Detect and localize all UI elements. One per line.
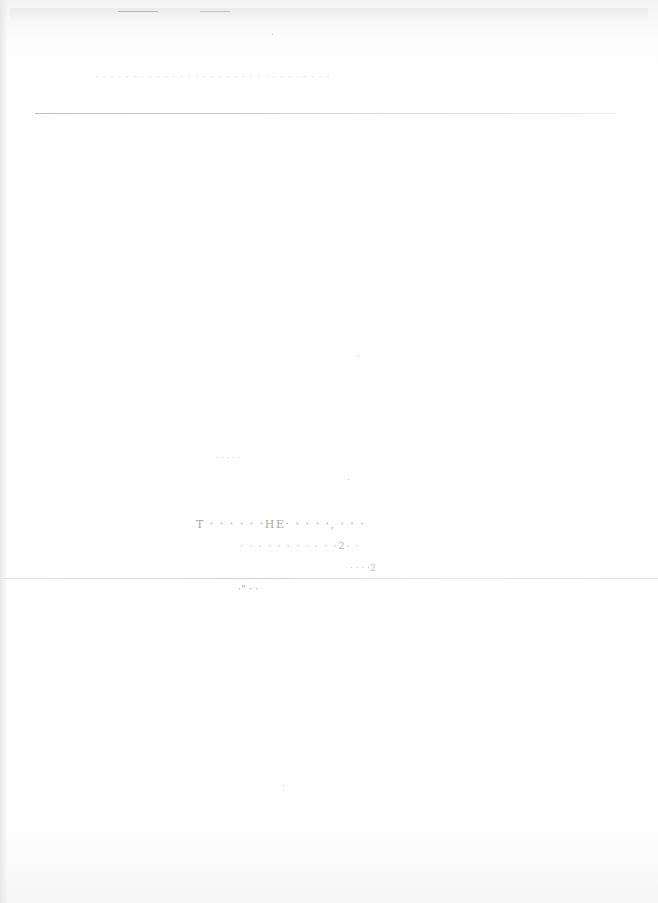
- body-text-line: · · · · · · · · · · ·2· ·: [240, 540, 360, 551]
- section-divider: [0, 578, 658, 579]
- body-text-line: · · · · ·: [215, 453, 241, 463]
- top-rule-fragment: [200, 11, 230, 12]
- header-divider: [35, 113, 615, 114]
- top-rule-fragment: [118, 11, 158, 12]
- scan-top-band: [10, 8, 648, 22]
- scan-speck: [348, 479, 349, 480]
- scan-speck: [283, 785, 284, 786]
- scan-speck: [358, 355, 359, 356]
- scan-speck: [272, 34, 273, 35]
- scan-edge-shadow: [0, 0, 8, 903]
- scanned-page: · · · · · · · · · · · · · · · · · · · · …: [0, 0, 658, 903]
- page-header-text: · · · · · · · · · · · · · · · · · · · · …: [95, 72, 565, 82]
- body-text-line: · · · ·2: [350, 563, 376, 573]
- body-text-line: ·" · ·: [238, 583, 259, 594]
- body-text-line: T · · · · · ·HE· · · · ·, · · ·: [196, 518, 365, 531]
